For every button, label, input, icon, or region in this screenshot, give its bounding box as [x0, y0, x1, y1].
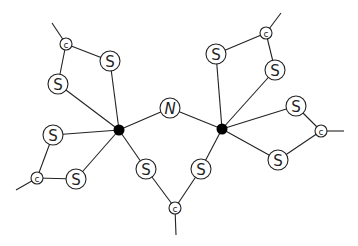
- atom-label: S: [211, 46, 221, 64]
- atom-s2: S: [48, 74, 68, 94]
- atom-s5: S: [136, 159, 156, 179]
- atom-label: S: [196, 161, 206, 179]
- atom-label: c: [264, 29, 269, 39]
- atom-label: c: [64, 40, 69, 50]
- atom-label: S: [273, 152, 283, 170]
- atom-s1: S: [100, 51, 120, 71]
- atom-label: S: [270, 62, 280, 80]
- atom-s10: S: [268, 150, 288, 170]
- metal-center-m2: [217, 124, 228, 135]
- atom-label: c: [319, 127, 324, 137]
- bond-m2-s8: [222, 70, 275, 129]
- atom-s3: S: [43, 125, 63, 145]
- atom-c5: c: [315, 125, 327, 137]
- atom-c2: c: [31, 172, 43, 184]
- atom-s7: S: [206, 44, 226, 64]
- atom-label: S: [105, 53, 115, 71]
- atom-c1: c: [60, 38, 72, 50]
- atom-s9: S: [286, 96, 306, 116]
- bond-m2-s9: [222, 106, 296, 129]
- molecular-structure-diagram: NSScSScSScSScSSc: [0, 0, 358, 246]
- bond-m1-s2: [58, 84, 119, 130]
- metal-atom-dot: [217, 124, 228, 135]
- bond-m2-s7: [216, 54, 222, 129]
- metal-atom-dot: [114, 125, 125, 136]
- atom-n: N: [160, 98, 180, 118]
- atom-s6: S: [191, 159, 211, 179]
- atom-label: S: [53, 76, 63, 94]
- atom-label: S: [141, 161, 151, 179]
- atom-c3: c: [169, 202, 181, 214]
- atom-s8: S: [265, 60, 285, 80]
- atoms-layer: NSScSScSScSScSSc: [31, 27, 327, 214]
- atom-c4: c: [260, 27, 272, 39]
- atom-label: N: [164, 100, 175, 118]
- atom-label: S: [291, 98, 301, 116]
- metal-center-m1: [114, 125, 125, 136]
- atom-label: S: [48, 127, 58, 145]
- atom-label: c: [35, 174, 40, 184]
- atom-s4: S: [66, 169, 86, 189]
- atom-label: S: [71, 171, 81, 189]
- atom-label: c: [173, 204, 178, 214]
